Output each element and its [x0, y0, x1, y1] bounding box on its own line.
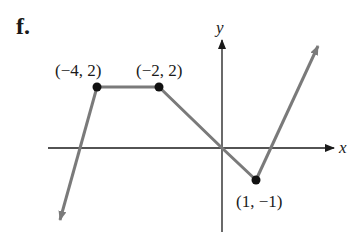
x-axis-label: x — [338, 138, 347, 157]
point-1-neg1 — [252, 176, 261, 185]
graph-segments — [97, 87, 256, 180]
piecewise-graph: f. x y (−4, 2) (−2, 2) (1, −1) — [0, 0, 359, 246]
point-label-neg4-2: (−4, 2) — [55, 61, 101, 80]
y-axis-label: y — [214, 18, 224, 37]
left-ray — [60, 87, 97, 220]
point-neg4-2 — [93, 83, 102, 92]
point-label-neg2-2: (−2, 2) — [136, 61, 182, 80]
right-ray — [256, 46, 318, 180]
part-label: f. — [16, 13, 30, 39]
point-label-1-neg1: (1, −1) — [236, 192, 282, 211]
point-neg2-2 — [155, 83, 164, 92]
